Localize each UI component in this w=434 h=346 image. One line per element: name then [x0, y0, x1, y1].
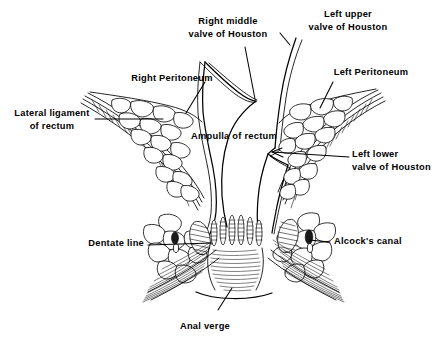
label-line: valve of Houston [189, 29, 268, 39]
label-line: Left Peritoneum [334, 67, 409, 77]
label-ampulla-of-rectum: Ampulla of rectum [191, 131, 277, 141]
anatomy-illustration: Right middle valve of Houston Left upper… [0, 0, 434, 346]
label-alcocks-canal: Alcock's canal [334, 236, 402, 246]
external-sphincter-fibers [211, 250, 260, 291]
label-dentate-line: Dentate line [88, 238, 144, 248]
right-ischiorectal-fat [81, 92, 219, 302]
anal-column [247, 217, 253, 245]
label-line: Anal verge [180, 321, 230, 331]
fat-lobules-left [279, 96, 353, 199]
label-line: Ampulla of rectum [191, 131, 277, 141]
label-line: Lateral ligament [14, 108, 89, 118]
anatomy-figure: Right middle valve of Houston Left upper… [0, 0, 434, 346]
label-left-peritoneum: Left Peritoneum [334, 67, 409, 77]
label-line: Left lower [352, 149, 399, 159]
label-line: of rectum [30, 121, 75, 131]
label-right-middle-valve: Right middle valve of Houston [189, 16, 268, 39]
anal-column [211, 220, 217, 246]
anal-column [220, 217, 226, 245]
label-line: Alcock's canal [334, 236, 402, 246]
fat-lobules-right [112, 98, 200, 201]
left-ischiorectal-fat [268, 89, 385, 302]
label-line: Left upper [324, 9, 372, 19]
leader-left-upper-valve [280, 33, 290, 45]
label-line: Dentate line [88, 238, 144, 248]
leader-right-middle-valve [245, 47, 255, 99]
label-left-upper-valve: Left upper valve of Houston [309, 9, 388, 32]
label-right-peritoneum: Right Peritoneum [131, 73, 212, 83]
anal-column [229, 215, 235, 245]
label-lateral-ligament: Lateral ligament of rectum [14, 108, 89, 131]
label-line: valve of Houston [309, 22, 388, 32]
label-line: Right Peritoneum [131, 73, 212, 83]
label-left-lower-valve: Left lower valve of Houston [352, 149, 431, 172]
columns-of-morgagni [211, 215, 262, 246]
label-anal-verge: Anal verge [180, 321, 230, 331]
label-line: Right middle [198, 16, 257, 26]
anal-verge-line [196, 292, 272, 299]
anal-column [256, 220, 262, 246]
label-line: valve of Houston [352, 162, 431, 172]
anal-column [238, 215, 244, 245]
